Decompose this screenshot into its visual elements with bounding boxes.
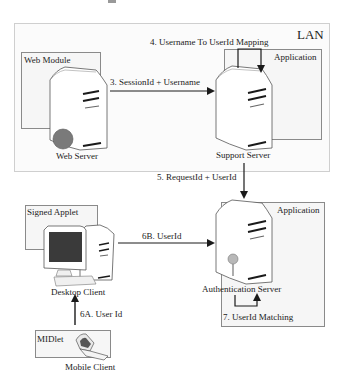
support-server-label: Support Server	[216, 151, 270, 160]
auth-server-label: Authentication Server	[202, 285, 281, 294]
mobile-client-label: Mobile Client	[65, 363, 115, 372]
edge-6a-label: 6A. User Id	[80, 310, 122, 319]
edge-4-label: 4. Username To UserId Mapping	[150, 38, 268, 47]
edge-7-label: 7. UserId Matching	[223, 313, 293, 322]
edge-5-label: 5. RequestId + UserId	[157, 173, 237, 182]
mobile-phone-icon	[76, 334, 108, 360]
desktop-client-label: Desktop Client	[51, 288, 105, 297]
desktop-computer-icon	[44, 225, 114, 286]
web-server-label: Web Server	[56, 152, 98, 161]
edge-7-arrow	[235, 295, 257, 306]
edge-6b-label: 6B. UserId	[142, 232, 182, 241]
support-server-icon	[216, 66, 272, 150]
auth-server-icon	[216, 200, 272, 284]
edge-3-label: 3. SessionId + Username	[110, 78, 200, 87]
web-server-icon	[50, 67, 107, 150]
